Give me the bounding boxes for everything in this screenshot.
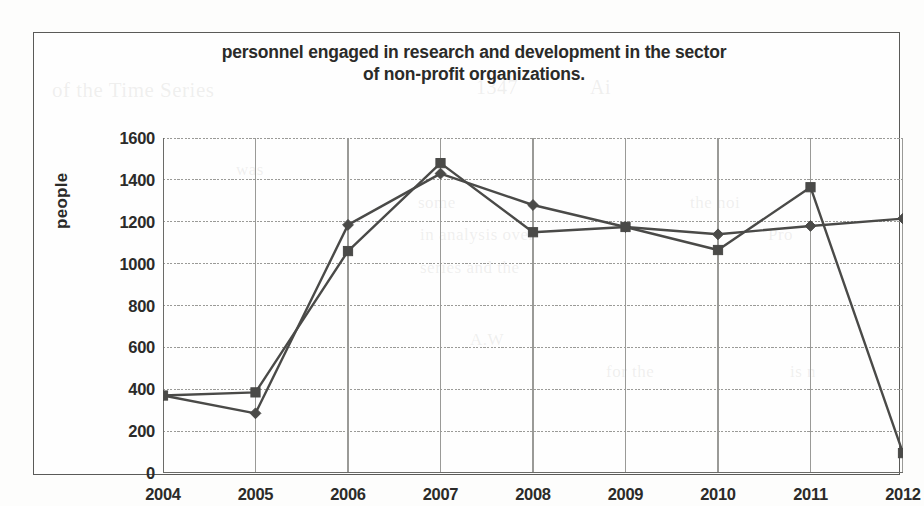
data-point-square bbox=[713, 245, 722, 254]
y-tick-label: 1600 bbox=[91, 129, 155, 148]
data-point-square bbox=[528, 228, 537, 237]
x-tick-label: 2009 bbox=[591, 485, 661, 504]
data-point-diamond bbox=[343, 219, 354, 230]
chart-frame: personnel engaged in research and develo… bbox=[33, 32, 900, 475]
y-tick-label: 0 bbox=[91, 464, 155, 483]
data-point-diamond bbox=[435, 168, 446, 179]
x-tick-label: 2012 bbox=[868, 485, 924, 504]
data-point-diamond bbox=[713, 229, 724, 240]
y-tick-label: 1400 bbox=[91, 170, 155, 189]
data-point-diamond bbox=[805, 221, 816, 232]
data-point-diamond bbox=[250, 408, 261, 419]
data-point-square bbox=[251, 388, 260, 397]
x-tick-label: 2006 bbox=[313, 485, 383, 504]
x-tick-label: 2004 bbox=[128, 485, 198, 504]
x-tick-label: 2011 bbox=[776, 485, 846, 504]
x-tick-label: 2005 bbox=[221, 485, 291, 504]
y-tick-label: 1000 bbox=[91, 254, 155, 273]
data-point-square bbox=[898, 449, 903, 458]
x-tick-label: 2007 bbox=[406, 485, 476, 504]
data-point-square bbox=[806, 183, 815, 192]
y-axis-label: people bbox=[52, 172, 72, 229]
y-tick-label: 1200 bbox=[91, 212, 155, 231]
x-tick-label: 2010 bbox=[683, 485, 753, 504]
data-point-square bbox=[163, 391, 168, 400]
plot-area bbox=[163, 138, 903, 473]
x-tick-label: 2008 bbox=[498, 485, 568, 504]
scanned-page: of the Time Series1347Aiwassomethe noiin… bbox=[0, 0, 924, 506]
data-point-diamond bbox=[528, 200, 539, 211]
chart-title: personnel engaged in research and develo… bbox=[94, 41, 854, 86]
y-tick-label: 800 bbox=[91, 296, 155, 315]
chart-title-line-1: personnel engaged in research and develo… bbox=[94, 41, 854, 63]
y-tick-label: 200 bbox=[91, 422, 155, 441]
data-point-square bbox=[621, 222, 630, 231]
data-point-square bbox=[436, 159, 445, 168]
y-tick-label: 400 bbox=[91, 380, 155, 399]
line-chart-canvas bbox=[163, 138, 903, 473]
chart-title-line-2: of non-profit organizations. bbox=[94, 63, 854, 85]
data-point-square bbox=[343, 246, 352, 255]
y-tick-label: 600 bbox=[91, 338, 155, 357]
data-point-diamond bbox=[898, 213, 903, 224]
